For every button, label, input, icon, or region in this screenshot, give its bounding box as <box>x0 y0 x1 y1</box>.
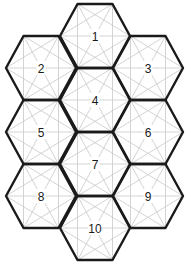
hex-number-label: 5 <box>38 126 45 140</box>
hex-number-label: 1 <box>92 30 99 44</box>
hex-puzzle-board: 12345678910 <box>0 0 190 272</box>
hex-number-label: 2 <box>38 62 45 76</box>
hex-number-label: 4 <box>92 94 99 108</box>
hex-number-label: 8 <box>38 190 45 204</box>
hex-number-label: 3 <box>145 62 152 76</box>
hex-number-label: 9 <box>145 190 152 204</box>
hex-number-label: 6 <box>145 126 152 140</box>
hex-number-label: 10 <box>88 222 102 236</box>
hex-number-label: 7 <box>92 158 99 172</box>
